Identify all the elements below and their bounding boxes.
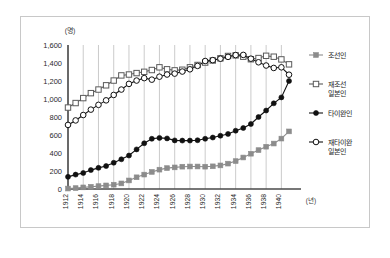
series-0-point — [149, 170, 154, 175]
series-2-point — [271, 101, 276, 106]
series-1-point — [157, 65, 162, 70]
series-line-2 — [68, 81, 289, 177]
y-axis-tick-label: 0 — [58, 185, 62, 194]
series-1-point — [134, 70, 139, 75]
series-3-point — [164, 72, 170, 78]
series-0-point — [287, 129, 292, 134]
series-3-point — [256, 59, 262, 65]
series-3-point — [141, 75, 147, 81]
y-axis-tick-label: 600 — [49, 131, 62, 140]
series-0-point — [271, 141, 276, 146]
series-0-point — [203, 164, 208, 169]
series-2-point — [195, 138, 200, 143]
x-axis-tick-label: 1918 — [108, 194, 115, 209]
series-1-point — [286, 62, 291, 67]
series-2-point — [180, 138, 185, 143]
y-axis-tick-label: 1,400 — [43, 59, 62, 68]
series-3-point — [263, 63, 269, 69]
series-2-point — [203, 136, 208, 141]
series-0-point — [81, 185, 86, 190]
series-3-point — [233, 52, 239, 58]
series-2-point — [149, 136, 154, 141]
series-0-point — [96, 184, 101, 189]
y-axis-unit: (명) — [65, 26, 76, 35]
series-1-point — [65, 105, 70, 110]
series-0-point — [172, 165, 177, 170]
series-1-point — [164, 67, 169, 72]
series-3-point — [286, 72, 292, 78]
series-2-point — [210, 135, 215, 140]
series-1-point — [149, 67, 154, 72]
series-0-point — [66, 186, 71, 191]
series-0-point — [142, 172, 147, 177]
series-0-point — [119, 181, 124, 186]
series-0-point — [226, 161, 231, 166]
series-3-point — [149, 77, 155, 83]
series-0-point — [157, 167, 162, 172]
series-3-point — [157, 74, 163, 80]
series-3-point — [187, 67, 193, 73]
series-0-point — [188, 164, 193, 169]
series-2-point — [157, 135, 162, 140]
series-1-point — [96, 87, 101, 92]
series-2-point — [73, 172, 78, 177]
legend-marker-1 — [313, 81, 318, 86]
series-1-point — [81, 95, 86, 100]
series-2-point — [88, 168, 93, 173]
chart-figure: (명)02004006008001,0001,2001,4001,6001912… — [20, 16, 370, 228]
series-0-point — [210, 164, 215, 169]
legend-marker-0 — [314, 53, 319, 58]
series-1-point — [263, 53, 268, 58]
x-axis-unit: (년) — [306, 196, 316, 205]
y-axis-tick-label: 800 — [49, 113, 62, 122]
series-2-point — [96, 165, 101, 170]
y-axis-tick-label: 200 — [49, 167, 62, 176]
series-0-point — [241, 155, 246, 160]
legend-label-0: 조선인 — [328, 51, 346, 59]
x-axis-tick-label: 1916 — [92, 194, 99, 209]
series-1-point — [126, 72, 131, 77]
series-3-point — [80, 112, 86, 118]
series-0-point — [279, 136, 284, 141]
series-2-point — [241, 125, 246, 130]
series-3-point — [180, 69, 186, 75]
x-axis-tick-label: 1928 — [184, 194, 191, 209]
series-3-point — [248, 56, 254, 62]
series-2-point — [119, 157, 124, 162]
series-0-point — [218, 163, 223, 168]
series-2-point — [134, 147, 139, 152]
x-axis-tick-label: 1914 — [77, 194, 84, 209]
series-0-point — [233, 159, 238, 164]
series-3-point — [96, 102, 102, 108]
legend-label-1: 일본인 — [328, 89, 346, 97]
series-0-point — [264, 144, 269, 149]
series-3-point — [119, 87, 125, 93]
series-0-point — [127, 178, 132, 183]
series-1-point — [73, 100, 78, 105]
series-0-point — [111, 182, 116, 187]
series-3-point — [73, 118, 79, 124]
legend-label-3: 재타이완 — [328, 138, 353, 147]
series-1-point — [279, 57, 284, 62]
x-axis-tick-label: 1922 — [138, 194, 145, 209]
series-0-point — [134, 175, 139, 180]
x-axis-tick-label: 1938 — [260, 194, 267, 209]
x-axis-tick-label: 1912 — [62, 194, 69, 209]
y-axis-tick-label: 400 — [49, 149, 62, 158]
legend-label-2: 타이완인 — [328, 109, 352, 118]
series-0-point — [88, 184, 93, 189]
series-2-point — [287, 79, 292, 84]
series-3-point — [195, 63, 201, 69]
series-1-point — [271, 54, 276, 59]
x-axis-tick-label: 1924 — [153, 194, 160, 209]
series-0-point — [248, 151, 253, 156]
series-1-point — [88, 90, 93, 95]
x-axis-tick-label: 1934 — [230, 194, 237, 209]
x-axis-tick-label: 1940 — [275, 194, 282, 209]
series-0-point — [165, 166, 170, 171]
series-3-point — [103, 98, 109, 104]
series-2-point — [279, 95, 284, 100]
y-axis-tick-label: 1,600 — [43, 41, 62, 50]
legend-label-3: 일본인 — [328, 147, 346, 155]
series-2-point — [264, 108, 269, 113]
